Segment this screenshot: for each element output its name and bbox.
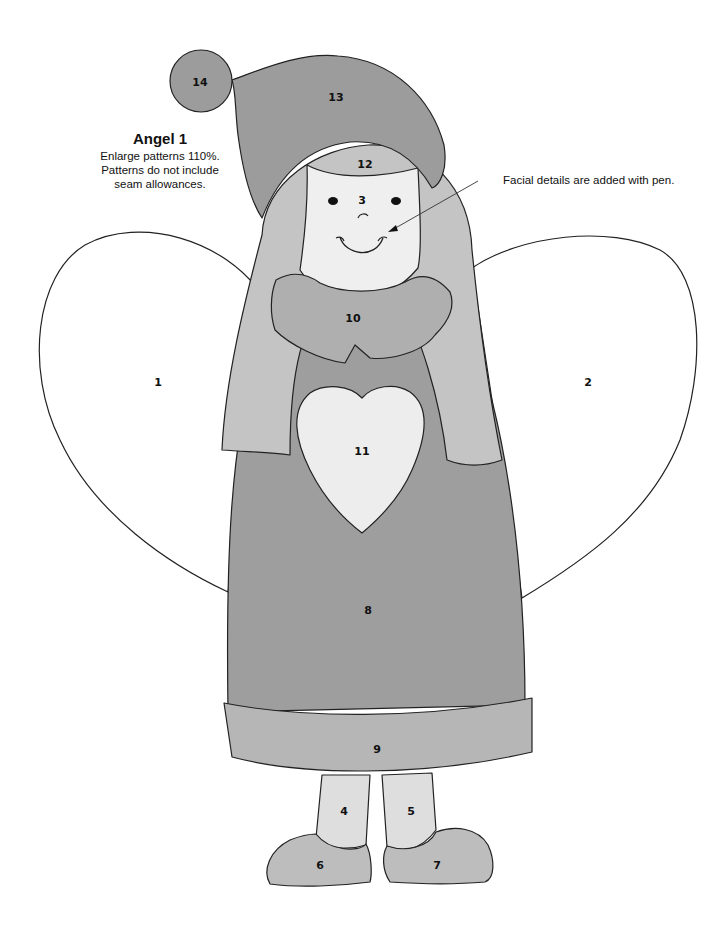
facial-details-callout: Facial details are added with pen. bbox=[503, 174, 674, 186]
instruction-line-1: Enlarge patterns 110%. bbox=[90, 149, 230, 163]
left-eye bbox=[328, 197, 338, 205]
piece-label-6: 6 bbox=[316, 859, 324, 872]
piece-label-4: 4 bbox=[340, 805, 348, 818]
page-title: Angel 1 bbox=[90, 130, 230, 147]
piece-label-9: 9 bbox=[373, 743, 381, 756]
title-block: Angel 1 Enlarge patterns 110%. Patterns … bbox=[90, 130, 230, 191]
face-3 bbox=[300, 165, 420, 300]
piece-label-14: 14 bbox=[192, 76, 208, 89]
piece-label-10: 10 bbox=[345, 312, 361, 325]
piece-label-8: 8 bbox=[364, 604, 372, 617]
piece-label-3: 3 bbox=[358, 194, 366, 207]
right-eye bbox=[391, 197, 401, 205]
piece-label-13: 13 bbox=[328, 91, 343, 104]
piece-label-2: 2 bbox=[584, 376, 592, 389]
instruction-line-3: seam allowances. bbox=[90, 177, 230, 191]
instruction-line-2: Patterns do not include bbox=[90, 163, 230, 177]
piece-label-11: 11 bbox=[354, 445, 369, 458]
piece-label-12: 12 bbox=[357, 158, 372, 171]
piece-label-7: 7 bbox=[433, 859, 441, 872]
piece-label-5: 5 bbox=[407, 805, 415, 818]
piece-label-1: 1 bbox=[154, 376, 162, 389]
